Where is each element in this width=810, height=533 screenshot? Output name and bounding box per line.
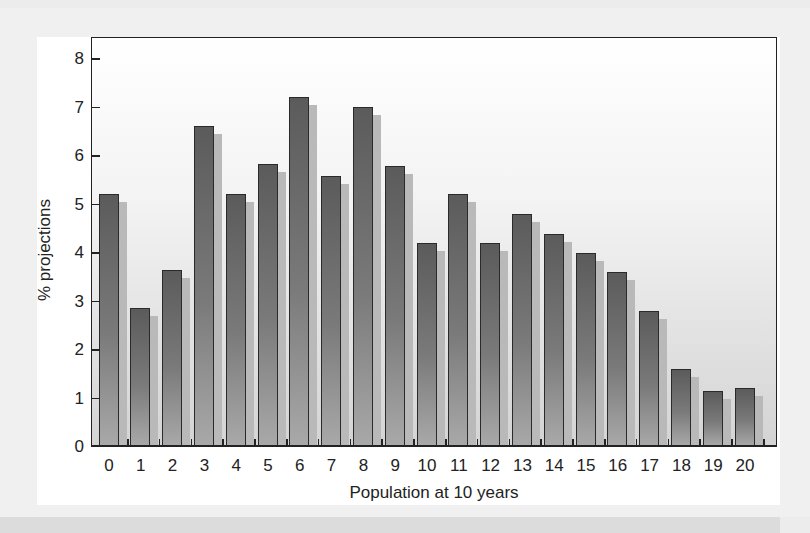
x-tick — [159, 439, 161, 446]
y-tick — [91, 398, 100, 400]
bar-shadow — [150, 316, 158, 446]
x-tick-label: 6 — [285, 456, 315, 476]
x-tick — [699, 439, 701, 446]
x-tick-label: 16 — [603, 456, 633, 476]
bar-shadow — [500, 251, 508, 446]
x-tick — [604, 439, 606, 446]
x-tick-label: 15 — [571, 456, 601, 476]
x-tick — [636, 439, 638, 446]
bar-20 — [735, 388, 755, 446]
x-tick — [668, 439, 670, 446]
bar-14 — [544, 234, 564, 447]
bar-shadow — [278, 172, 286, 447]
bar-shadow — [182, 278, 190, 446]
x-tick-label: 11 — [444, 456, 474, 476]
x-tick-label: 17 — [635, 456, 665, 476]
bar-shadow — [246, 202, 254, 446]
x-tick — [477, 439, 479, 446]
x-tick-label: 0 — [94, 456, 124, 476]
y-tick-label: 1 — [54, 390, 84, 408]
bar-6 — [289, 97, 309, 446]
bar-9 — [385, 166, 405, 447]
x-tick-label: 1 — [126, 456, 156, 476]
x-axis-label: Population at 10 years — [349, 483, 518, 503]
bar-shadow — [468, 202, 476, 446]
x-tick-label: 14 — [539, 456, 569, 476]
x-tick — [509, 439, 511, 446]
bar-11 — [448, 194, 468, 446]
x-tick — [381, 439, 383, 446]
bar-10 — [417, 243, 437, 446]
bar-8 — [353, 107, 373, 447]
bar-18 — [671, 369, 691, 446]
x-tick-label: 4 — [221, 456, 251, 476]
y-tick-label: 0 — [54, 438, 84, 456]
x-tick — [413, 439, 415, 446]
x-tick-label: 7 — [317, 456, 347, 476]
y-tick — [91, 58, 100, 60]
y-tick — [91, 301, 100, 303]
y-tick — [91, 252, 100, 254]
bar-shadow — [214, 134, 222, 446]
y-axis-label: % projections — [35, 199, 55, 301]
x-tick-label: 10 — [412, 456, 442, 476]
x-tick-label: 2 — [158, 456, 188, 476]
bar-shadow — [119, 202, 127, 446]
plot-area — [91, 37, 777, 447]
bar-5 — [258, 164, 278, 447]
bar-7 — [321, 176, 341, 446]
bar-shadow — [755, 396, 763, 446]
bar-12 — [480, 243, 500, 446]
y-tick-label: 8 — [54, 50, 84, 68]
x-tick — [540, 439, 542, 446]
x-tick-label: 8 — [348, 456, 378, 476]
x-tick — [254, 439, 256, 446]
y-tick-label: 4 — [54, 244, 84, 262]
x-tick-label: 12 — [476, 456, 506, 476]
y-tick-label: 5 — [54, 196, 84, 214]
x-tick — [731, 439, 733, 446]
bar-13 — [512, 214, 532, 447]
bar-shadow — [659, 319, 667, 447]
bar-17 — [639, 311, 659, 447]
x-tick-label: 9 — [380, 456, 410, 476]
x-tick — [191, 439, 193, 446]
x-tick-label: 19 — [698, 456, 728, 476]
y-tick — [91, 107, 100, 109]
x-tick-label: 3 — [189, 456, 219, 476]
bottom-strip — [0, 517, 780, 533]
y-tick-label: 6 — [54, 147, 84, 165]
y-tick — [91, 155, 100, 157]
x-tick — [445, 439, 447, 446]
x-tick — [286, 439, 288, 446]
bar-3 — [194, 126, 214, 446]
x-tick — [222, 439, 224, 446]
bar-4 — [226, 194, 246, 446]
x-tick-label: 13 — [507, 456, 537, 476]
y-tick — [91, 349, 100, 351]
x-tick-label: 5 — [253, 456, 283, 476]
y-tick-label: 7 — [54, 99, 84, 117]
x-tick-label: 18 — [666, 456, 696, 476]
bar-shadow — [405, 174, 413, 447]
bar-0 — [99, 194, 119, 446]
y-tick-label: 3 — [54, 293, 84, 311]
bar-16 — [607, 272, 627, 446]
bar-shadow — [691, 377, 699, 446]
bar-shadow — [723, 399, 731, 447]
bar-shadow — [309, 105, 317, 446]
bar-shadow — [437, 251, 445, 446]
bar-19 — [703, 391, 723, 447]
bar-shadow — [627, 280, 635, 446]
x-tick-label: 20 — [730, 456, 760, 476]
bar-shadow — [532, 222, 540, 447]
bar-shadow — [341, 184, 349, 446]
x-tick — [763, 439, 765, 446]
x-tick — [572, 439, 574, 446]
y-tick-label: 2 — [54, 341, 84, 359]
bar-1 — [130, 308, 150, 446]
bar-shadow — [373, 115, 381, 447]
x-tick — [127, 439, 129, 446]
y-tick — [91, 204, 100, 206]
bar-15 — [576, 253, 596, 447]
